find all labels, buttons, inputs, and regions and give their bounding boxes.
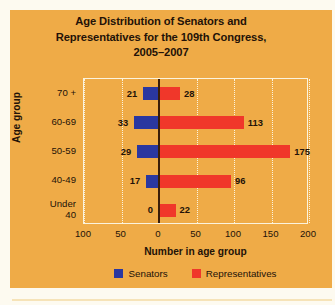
y-axis-category-label: Under40	[6, 198, 76, 221]
y-axis-category-label: 40-49	[6, 174, 76, 186]
data-label-senators: 33	[118, 116, 128, 130]
bar-row: 2128	[84, 79, 307, 108]
bar-senators	[146, 175, 159, 188]
bar-row: 33113	[84, 108, 307, 137]
x-axis-title: Number in age group	[83, 246, 308, 257]
bar-representatives	[159, 145, 290, 158]
y-axis-label-line: 50-59	[51, 145, 76, 156]
bar-representatives	[159, 116, 244, 129]
data-label-representatives: 113	[248, 116, 263, 130]
legend-label: Senators	[128, 268, 167, 279]
x-axis-tick-label: 50	[176, 228, 216, 239]
data-label-representatives: 96	[235, 174, 245, 188]
y-axis-label-line: 40-49	[51, 174, 76, 185]
y-axis-label-line: 60-69	[51, 116, 76, 127]
data-label-senators: 17	[130, 174, 140, 188]
y-axis-category-label: 60-69	[6, 116, 76, 128]
bar-representatives	[159, 87, 180, 100]
bar-representatives	[159, 175, 231, 188]
bar-senators	[137, 145, 159, 158]
data-label-representatives: 22	[180, 203, 190, 217]
data-label-senators: 0	[148, 203, 153, 217]
y-axis-label-line: 40	[65, 209, 76, 220]
zero-axis-line	[158, 79, 160, 223]
bar-row: 29175	[84, 137, 307, 166]
bar-senators	[134, 116, 159, 129]
data-label-representatives: 175	[294, 145, 310, 159]
x-axis-tick-label: 100	[63, 228, 103, 239]
legend-label: Representatives	[206, 268, 277, 279]
bar-row: 1796	[84, 167, 307, 196]
chart-legend: SenatorsRepresentatives	[83, 268, 308, 279]
y-axis-category-label: 50-59	[6, 145, 76, 157]
data-label-representatives: 28	[184, 87, 194, 101]
chart-figure: Age Distribution of Senators and Represe…	[0, 0, 335, 305]
data-label-senators: 21	[127, 87, 137, 101]
legend-item: Senators	[114, 268, 167, 279]
y-axis-label-line: Under	[50, 198, 76, 209]
x-axis-tick-label: 100	[213, 228, 253, 239]
x-axis-tick-label: 50	[101, 228, 141, 239]
x-axis-tick-label: 150	[251, 228, 291, 239]
x-axis-tick-label: 200	[288, 228, 328, 239]
plot-area: 212833113291751796022	[83, 78, 308, 224]
bar-senators	[143, 87, 159, 100]
bar-representatives	[159, 204, 176, 217]
legend-item: Representatives	[192, 268, 277, 279]
x-axis-tick-label: 0	[138, 228, 178, 239]
legend-swatch-icon	[192, 269, 201, 278]
y-axis-label-line: 70 +	[57, 87, 76, 98]
data-label-senators: 29	[121, 145, 131, 159]
legend-swatch-icon	[114, 269, 123, 278]
bar-row: 022	[84, 196, 307, 225]
y-axis-category-label: 70 +	[6, 87, 76, 99]
plot-wrapper: Age group 70 +60-6950-5940-49Under40 212…	[0, 0, 335, 305]
